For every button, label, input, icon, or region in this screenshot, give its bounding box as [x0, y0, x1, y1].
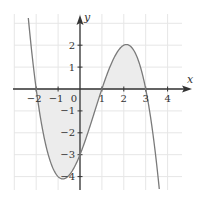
x-tick-label: 4 — [164, 93, 170, 104]
y-tick-label: −2 — [60, 127, 75, 138]
x-tick-label: −1 — [49, 93, 64, 104]
x-axis-label: x — [187, 73, 194, 86]
shaded-area — [36, 45, 146, 179]
y-tick-label: 1 — [69, 62, 75, 73]
x-tick-label: −2 — [27, 93, 42, 104]
x-tick-label: 3 — [143, 93, 149, 104]
y-tick-label: −4 — [60, 171, 75, 182]
x-tick-label: 2 — [121, 93, 127, 104]
cubic-function-graph: −2−10123421−1−2−3−4 x y — [0, 0, 203, 205]
y-tick-label: −1 — [60, 105, 75, 116]
y-tick-label: 2 — [69, 40, 75, 51]
x-tick-label: 0 — [71, 93, 77, 104]
y-tick-label: −3 — [60, 149, 75, 160]
x-tick-label: 1 — [99, 93, 105, 104]
y-axis-label: y — [83, 11, 91, 24]
